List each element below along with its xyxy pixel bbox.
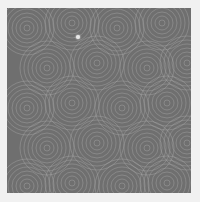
texture-tile — [7, 8, 191, 193]
concentric-rings-pattern — [7, 8, 191, 193]
highlight-sparkle — [76, 35, 80, 39]
